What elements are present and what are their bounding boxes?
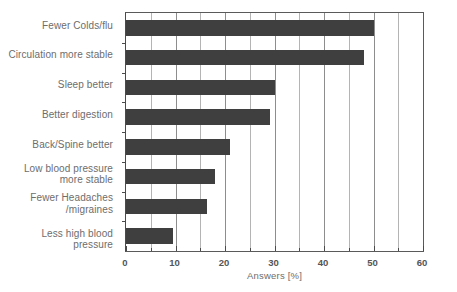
x-axis-tick-label: 20 [219,257,230,268]
x-axis-tick-label: 50 [367,257,378,268]
y-axis-tick [122,43,126,44]
y-axis-category-label: Fewer Headaches /migraines [30,192,113,215]
x-axis-tick-minor [151,248,152,251]
y-axis-category-label: Sleep better [58,79,113,91]
y-axis-category-label: Circulation more stable [8,49,113,61]
x-axis-tick-label: 0 [122,257,127,268]
y-axis-category-label: Low blood pressure more stable [24,163,113,186]
x-axis-tick-label: 30 [268,257,279,268]
y-axis-category-label: Less high blood pressure [0,228,113,251]
x-axis-tick-minor [200,248,201,251]
plot-area [125,12,424,252]
y-axis-category-labels: Fewer Colds/fluCirculation more stableSl… [0,10,119,252]
bar [126,20,374,35]
x-axis-tick-label: 60 [417,257,428,268]
x-axis-tick-label: 10 [169,257,180,268]
y-axis-category-label: Back/Spine better [32,139,113,151]
x-axis-title: Answers [%] [125,270,424,281]
x-axis-tick-major [225,246,226,251]
bar-chart: Fewer Colds/fluCirculation more stableSl… [0,0,457,292]
bar [126,50,364,65]
x-axis-tick-major [423,246,424,251]
x-axis-tick-minor [299,248,300,251]
y-axis-category-label: Fewer Colds/flu [42,20,113,32]
y-axis-tick [122,132,126,133]
x-axis-tick-major [275,246,276,251]
bar [126,169,215,184]
y-axis-tick [122,192,126,193]
x-axis-tick-major [126,246,127,251]
x-axis-tick-major [324,246,325,251]
y-axis-tick [122,162,126,163]
bar [126,199,207,214]
x-axis-tick-major [374,246,375,251]
x-axis-tick-minor [250,248,251,251]
y-axis-tick [122,221,126,222]
x-axis-tick-major [176,246,177,251]
y-axis-category-label: Better digestion [42,109,113,121]
y-axis-tick [122,73,126,74]
bar [126,109,270,124]
bar [126,139,230,154]
bar [126,80,275,95]
x-axis-tick-minor [398,248,399,251]
bar [126,228,173,243]
x-axis-tick-minor [349,248,350,251]
y-axis-tick [122,102,126,103]
x-axis-tick-label: 40 [318,257,329,268]
x-axis-tick-labels: 0102030405060 [125,257,424,271]
bar-series [126,13,423,251]
